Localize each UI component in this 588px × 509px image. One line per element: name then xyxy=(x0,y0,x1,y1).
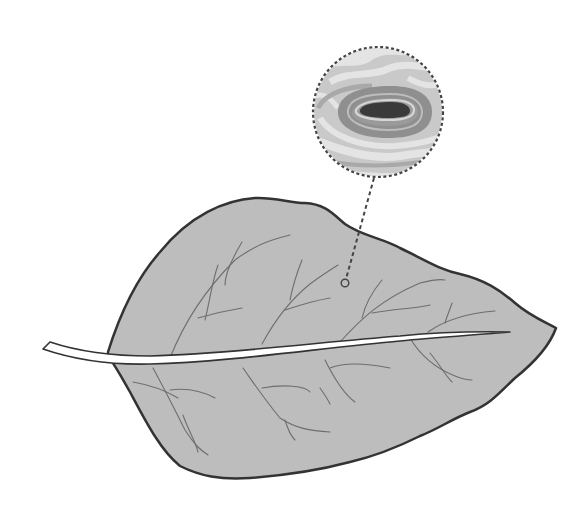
leaf-blade xyxy=(108,198,556,479)
magnified-inset xyxy=(310,40,455,190)
leaf-illustration xyxy=(0,0,588,509)
leaf xyxy=(43,198,556,479)
